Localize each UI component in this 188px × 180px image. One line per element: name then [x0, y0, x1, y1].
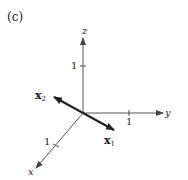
y-tick-label: 1 — [126, 117, 132, 127]
x-tick-label: 1 — [44, 137, 50, 147]
z-tick-label: 1 — [71, 61, 77, 71]
vector-x2 — [54, 97, 83, 113]
y-axis-label: y — [165, 108, 171, 118]
vector-x1 — [83, 113, 114, 130]
z-axis-label: z — [82, 26, 87, 36]
vector-x2-label: x2 — [35, 90, 46, 103]
vector-x1-label: x1 — [104, 135, 115, 148]
x-axis-label: x — [28, 167, 34, 177]
coordinate-diagram — [0, 0, 188, 180]
